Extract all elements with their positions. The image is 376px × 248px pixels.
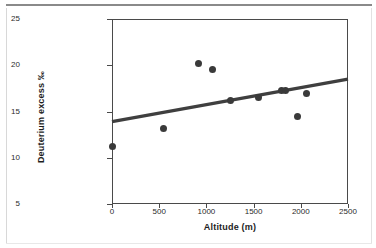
x-axis-tick-label: 0 bbox=[92, 207, 132, 216]
data-point-marker bbox=[294, 113, 301, 120]
data-points-layer bbox=[112, 19, 348, 204]
data-point-marker bbox=[160, 125, 167, 132]
y-axis-tick-label: 5 bbox=[0, 200, 20, 208]
y-axis-tick-label: 10 bbox=[0, 154, 20, 162]
data-point-marker bbox=[109, 143, 116, 150]
x-axis-label: Altitude (m) bbox=[112, 222, 348, 232]
data-point-marker bbox=[209, 66, 216, 73]
x-axis-tick-label: 500 bbox=[139, 207, 179, 216]
data-point-marker bbox=[303, 90, 310, 97]
scatter-plot-figure: 510152025 Deuterium excess ‰ 05001000150… bbox=[0, 0, 376, 248]
x-axis-tick-label: 1000 bbox=[186, 207, 226, 216]
data-point-marker bbox=[227, 97, 234, 104]
data-point-marker bbox=[255, 94, 262, 101]
x-axis-tick-label: 2000 bbox=[281, 207, 321, 216]
y-axis-label: Deuterium excess ‰ bbox=[36, 32, 46, 202]
x-axis-tick-label: 2500 bbox=[328, 207, 368, 216]
x-axis-tick-label: 1500 bbox=[234, 207, 274, 216]
data-point-marker bbox=[195, 60, 202, 67]
y-axis-tick-label: 20 bbox=[0, 61, 20, 69]
data-point-marker bbox=[282, 87, 289, 94]
y-axis-tick-label: 25 bbox=[0, 15, 20, 23]
y-axis-tick-label: 15 bbox=[0, 108, 20, 116]
